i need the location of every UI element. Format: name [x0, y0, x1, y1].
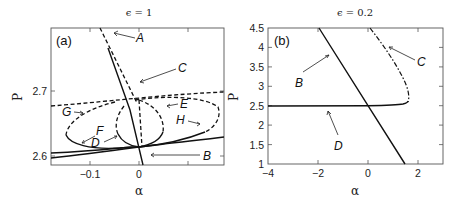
arrow-h — [188, 121, 200, 126]
curve-d-dashed — [116, 106, 124, 134]
label-g: G — [62, 105, 71, 119]
x-axis-label: α — [135, 184, 143, 198]
y-tick-label: 1.5 — [249, 139, 264, 151]
figure: ϵ = 1 −0.1 0 2.7 2.6 α P (a) — [0, 0, 459, 199]
label-h: H — [176, 113, 185, 127]
panel-label: (a) — [56, 33, 72, 48]
panel-b: ϵ = 0.2 −4 −2 0 2 1 1.5 2 2.5 3 3.5 4 — [227, 7, 443, 198]
y-axis-label: P — [227, 93, 241, 101]
arrow-g — [74, 111, 83, 115]
arrow-c — [140, 69, 176, 83]
y-tick-label: 3 — [258, 80, 264, 92]
x-tick-label: 0 — [136, 168, 142, 180]
y-tick-label: 4 — [258, 41, 264, 53]
arrow-c — [389, 47, 415, 60]
arrow-e — [167, 104, 178, 108]
curve-c-vertical — [139, 100, 142, 147]
curve-c — [370, 28, 409, 102]
x-tick-label: 2 — [415, 167, 421, 179]
arrow-d — [327, 111, 338, 135]
y-tick-label: 2.7 — [32, 85, 47, 97]
panel-b-title: ϵ = 0.2 — [337, 7, 373, 18]
x-tick-label: 0 — [365, 167, 371, 179]
x-tick-label: −2 — [312, 167, 324, 179]
y-tick-label: 1 — [258, 158, 264, 170]
y-tick-label: 4.5 — [249, 22, 264, 34]
label-c: C — [178, 61, 187, 75]
y-axis-label: P — [11, 93, 25, 101]
arrow-b — [303, 55, 329, 72]
curve-f — [66, 102, 115, 135]
label-a: A — [135, 31, 144, 45]
y-tick-label: 3.5 — [249, 61, 264, 73]
curve-a — [100, 28, 137, 103]
panel-a-title: ϵ = 1 — [126, 7, 153, 18]
arrow-a — [114, 31, 135, 38]
panel-a: ϵ = 1 −0.1 0 2.7 2.6 α P (a) — [11, 7, 224, 198]
curve-d — [268, 101, 408, 106]
curve-e — [139, 100, 163, 132]
panel-b-frame — [268, 28, 443, 164]
label-c: C — [417, 55, 426, 69]
label-d: D — [91, 136, 100, 150]
y-tick-label: 2 — [258, 119, 264, 131]
panel-label: (b) — [274, 33, 290, 48]
label-d: D — [334, 139, 343, 153]
y-tick-label: 2.5 — [249, 100, 264, 112]
x-axis-label: α — [351, 184, 359, 198]
label-e: E — [180, 97, 189, 111]
curve-g — [51, 92, 224, 106]
arrow-d — [104, 136, 117, 142]
label-b: B — [295, 76, 303, 90]
label-b: B — [203, 149, 211, 163]
y-tick-label: 2.6 — [32, 150, 47, 162]
arrow-b — [151, 153, 200, 157]
x-tick-label: −0.1 — [80, 168, 101, 180]
